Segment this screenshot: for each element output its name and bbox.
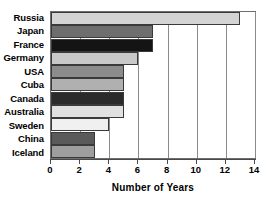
bar-russia: [51, 12, 240, 25]
x-axis-title: Number of Years: [50, 182, 256, 193]
bar-row: [51, 39, 255, 52]
tick-label-8: 8: [164, 165, 169, 175]
tick-label-2: 2: [76, 165, 81, 175]
category-label-china: China: [0, 132, 47, 145]
category-axis: Russia Japan France Germany USA Cuba Can…: [0, 11, 47, 159]
bar-row: [51, 12, 255, 25]
gridline-14: [255, 12, 256, 158]
bar-japan: [51, 25, 153, 38]
bar-row: [51, 118, 255, 131]
category-label-russia: Russia: [0, 11, 47, 24]
category-label-usa: USA: [0, 65, 47, 78]
tick-label-10: 10: [190, 165, 201, 175]
bar-canada: [51, 92, 124, 105]
bar-row: [51, 25, 255, 38]
category-label-australia: Australia: [0, 105, 47, 118]
bar-france: [51, 39, 153, 52]
bar-row: [51, 52, 255, 65]
tick-label-12: 12: [220, 165, 231, 175]
category-label-japan: Japan: [0, 24, 47, 37]
tick-label-14: 14: [249, 165, 260, 175]
bar-china: [51, 132, 95, 145]
bar-sweden: [51, 118, 109, 131]
bar-iceland: [51, 145, 95, 158]
bar-usa: [51, 65, 124, 78]
bar-row: [51, 65, 255, 78]
category-label-sweden: Sweden: [0, 119, 47, 132]
bar-cuba: [51, 78, 124, 91]
category-label-canada: Canada: [0, 92, 47, 105]
plot-area: [50, 11, 256, 159]
bar-row: [51, 145, 255, 158]
tick-label-4: 4: [106, 165, 111, 175]
category-label-france: France: [0, 38, 47, 51]
bar-row: [51, 131, 255, 144]
tick-label-0: 0: [47, 165, 52, 175]
tick-label-6: 6: [135, 165, 140, 175]
category-label-germany: Germany: [0, 51, 47, 64]
bar-germany: [51, 52, 138, 65]
bar-row: [51, 78, 255, 91]
category-label-cuba: Cuba: [0, 78, 47, 91]
bar-row: [51, 105, 255, 118]
bars-layer: [51, 12, 255, 158]
x-axis-ticks: 02468101214: [50, 159, 256, 164]
bar-chart: Russia Japan France Germany USA Cuba Can…: [0, 0, 264, 203]
bar-row: [51, 92, 255, 105]
bar-australia: [51, 105, 124, 118]
category-label-iceland: Iceland: [0, 146, 47, 159]
